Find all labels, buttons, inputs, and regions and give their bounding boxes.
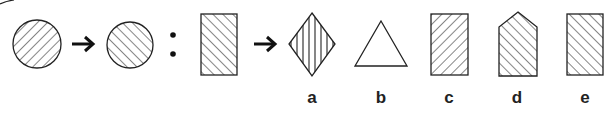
option-a-label: a [307,88,317,107]
option-c-rectangle[interactable] [431,14,468,75]
option-d-label: d [512,88,522,107]
option-d-pentagon[interactable] [499,12,537,76]
analogy-figure: a b c d e [0,0,608,117]
arrow-right-icon [254,37,275,51]
option-a-diamond[interactable] [289,13,335,76]
option-e-rectangle[interactable] [567,14,603,75]
arrow-right-icon [72,37,93,51]
option-c-label: c [444,88,453,107]
target-circle-backward-hatch [105,20,155,70]
ratio-colon [170,32,176,57]
query-rectangle-backward-hatch [201,14,237,75]
cropped-number-circle [0,0,14,4]
source-circle-forward-hatch [10,17,64,71]
option-b-triangle[interactable] [355,21,407,66]
option-e-label: e [580,88,589,107]
option-b-label: b [376,88,386,107]
